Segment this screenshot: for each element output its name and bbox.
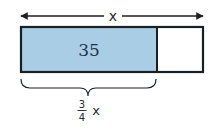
shaded-value: 35 [78,40,100,60]
total-length-arrow: x [21,8,203,24]
total-label: x [109,8,117,24]
fraction-variable: x [92,103,100,118]
unshaded-segment [157,27,203,72]
fraction-numerator: 3 [79,99,85,110]
fraction-denominator: 4 [79,112,85,123]
tape: 35 [21,27,203,72]
brace-icon [21,79,156,96]
fraction-label: 3 4 x [78,99,101,123]
tape-diagram: x 35 3 4 x [0,0,218,129]
